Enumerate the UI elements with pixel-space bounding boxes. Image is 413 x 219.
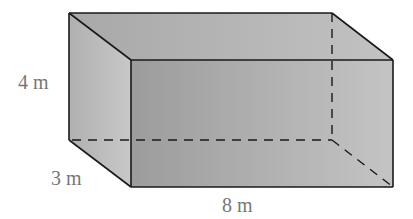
front-face (131, 60, 393, 187)
length-label: 8 m (222, 194, 253, 217)
height-label: 4 m (18, 71, 49, 94)
depth-label: 3 m (51, 167, 82, 190)
prism-diagram: 4 m 3 m 8 m (0, 0, 413, 219)
